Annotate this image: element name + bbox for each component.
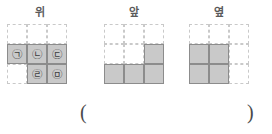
cell-marker-glyph: ㉠	[12, 49, 22, 60]
grid-cell-empty	[47, 24, 68, 45]
grid-cell-filled	[209, 44, 230, 65]
grid-cell-filled: ㉢	[47, 44, 68, 65]
grid-cell-filled	[189, 64, 210, 85]
grid-cell-filled	[209, 64, 230, 85]
grid-cell-filled	[104, 64, 125, 85]
grid-cell-empty	[229, 64, 250, 85]
grid-cell-empty	[229, 24, 250, 45]
answer-open-paren: (	[80, 100, 87, 124]
cell-marker-glyph: ㉡	[32, 49, 42, 60]
grid-front-view	[104, 24, 164, 84]
cell-marker-glyph: ㉤	[52, 69, 62, 80]
grid-cell-filled	[144, 64, 165, 85]
grid-cell-filled: ㉣	[27, 64, 48, 85]
cell-marker-glyph: ㉣	[32, 69, 42, 80]
figure-side-view: 옆	[183, 6, 255, 84]
grid-cell-empty	[124, 24, 145, 45]
grid-cell-empty	[229, 44, 250, 65]
grid-cell-filled	[124, 64, 145, 85]
grid-cell-empty	[189, 24, 210, 45]
grid-cell-empty	[209, 24, 230, 45]
worksheet-figure-panel: 위 ㉠㉡㉢㉣㉤ 앞 옆 ( )	[0, 0, 272, 134]
grid-top-view: ㉠㉡㉢㉣㉤	[7, 24, 67, 84]
grid-side-view	[189, 24, 249, 84]
figure-label-front: 앞	[98, 6, 170, 20]
grid-cell-empty	[27, 24, 48, 45]
answer-close-paren: )	[247, 100, 254, 124]
grid-cell-filled: ㉡	[27, 44, 48, 65]
figure-label-side: 옆	[183, 6, 255, 20]
cell-marker-glyph: ㉢	[52, 49, 62, 60]
grid-cell-empty	[124, 44, 145, 65]
figure-top-view: 위 ㉠㉡㉢㉣㉤	[4, 6, 76, 84]
figure-label-top: 위	[4, 6, 76, 20]
grid-cell-empty	[7, 24, 28, 45]
grid-cell-empty	[144, 24, 165, 45]
grid-cell-empty	[104, 44, 125, 65]
grid-cell-filled	[144, 44, 165, 65]
grid-cell-filled	[189, 44, 210, 65]
grid-cell-empty	[104, 24, 125, 45]
figure-front-view: 앞	[98, 6, 170, 84]
grid-cell-filled: ㉠	[7, 44, 28, 65]
grid-cell-filled: ㉤	[47, 64, 68, 85]
answer-blank[interactable]: ( )	[0, 98, 272, 128]
grid-cell-empty	[7, 64, 28, 85]
